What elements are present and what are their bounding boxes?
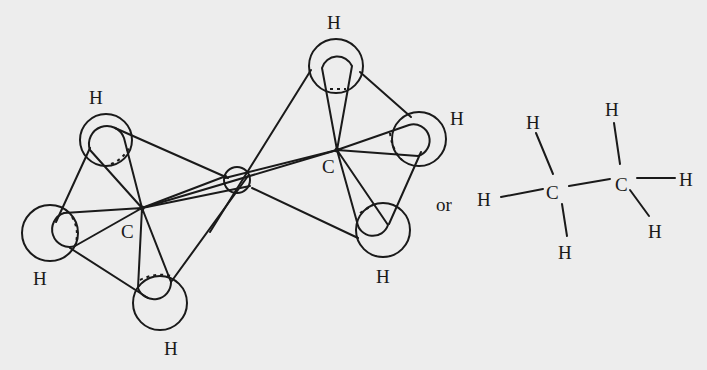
sigma-bond-overlap: [142, 150, 337, 208]
left-methyl-orbitals: [22, 114, 248, 330]
carbon-nucleus: [140, 206, 145, 211]
sp3-lobe: [322, 56, 352, 150]
or-connector: or: [436, 194, 453, 215]
bond: [630, 190, 649, 216]
bond: [501, 189, 543, 197]
bond: [562, 204, 567, 236]
h-label: H: [477, 189, 491, 210]
c-label: C: [546, 182, 559, 203]
bond: [569, 179, 610, 186]
h-label: H: [89, 87, 103, 108]
right-methyl-orbitals: [210, 39, 446, 257]
carbon-nucleus: [335, 148, 340, 153]
h-label: H: [164, 338, 178, 359]
sp3-lobe: [337, 124, 430, 156]
ethane-diagram: H H H C H H H C or C C H H H H H H: [0, 0, 707, 370]
h-orbital-sphere: [309, 39, 363, 93]
c-label: C: [322, 156, 335, 177]
bond: [614, 123, 620, 164]
sp3-lobe: [138, 208, 171, 299]
h-label: H: [679, 169, 693, 190]
h-orbital-sphere: [133, 276, 187, 330]
h-label: H: [605, 99, 619, 120]
h-label: H: [526, 112, 540, 133]
h-label: H: [558, 242, 572, 263]
bond: [536, 133, 553, 174]
c-label: C: [121, 221, 134, 242]
h-label: H: [376, 266, 390, 287]
c-label: C: [615, 174, 628, 195]
h-label: H: [327, 12, 341, 33]
h-label: H: [33, 268, 47, 289]
h-label: H: [450, 108, 464, 129]
h-label: H: [648, 221, 662, 242]
sp3-lobe: [89, 126, 142, 208]
sp3-lobe: [337, 150, 388, 236]
h-orbital-sphere: [356, 203, 410, 257]
structural-formula: [501, 123, 675, 236]
